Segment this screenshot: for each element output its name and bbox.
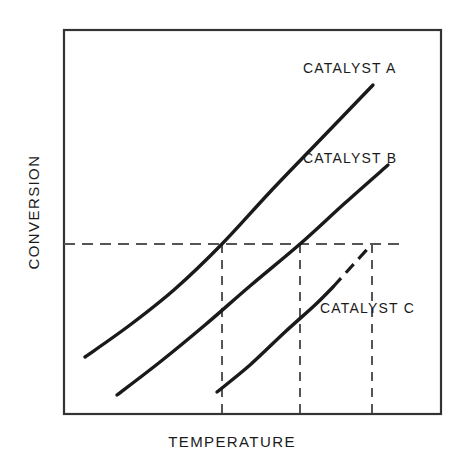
plot-frame: [64, 30, 441, 414]
series-label-catalyst-c: CATALYST C: [320, 300, 415, 316]
x-axis-title: TEMPERATURE: [0, 433, 464, 450]
y-axis-title-text: CONVERSION: [25, 155, 42, 270]
series-label-catalyst-a: CATALYST A: [303, 60, 396, 76]
series-label-catalyst-b: CATALYST B: [303, 150, 397, 166]
catalyst-conversion-figure: CATALYST A CATALYST B CATALYST C TEMPERA…: [0, 0, 464, 469]
